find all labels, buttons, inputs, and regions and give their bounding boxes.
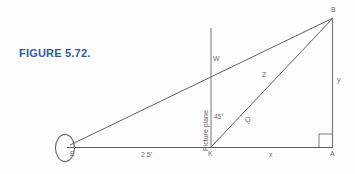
point-label-W: W [213,55,220,62]
angle-label-45: 45° [214,113,224,120]
point-label-K: K [208,150,213,157]
right-angle-marker-icon [319,134,332,147]
picture-plane-label: Picture plane [202,110,209,151]
point-label-B: B [331,6,336,13]
point-label-A: A [330,150,335,157]
segment-label-upper-diagonal: Z [262,71,266,78]
segment-label-station-to-ground: x [269,151,273,158]
segment-label-lower-diagonal: Q [245,116,250,123]
point-label-E: E [70,150,75,157]
figure-canvas: FIGURE 5.72. E K A B W 2.5' x y Z Q 45° … [0,0,355,174]
geometry-diagram [0,0,355,174]
figure-title: FIGURE 5.72. [19,47,90,59]
segment-label-eye-to-station: 2.5' [141,151,152,158]
segment-label-vertical-height: y [337,76,341,83]
diagonal-segment-KB [212,18,334,147]
